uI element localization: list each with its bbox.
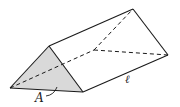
length-label: ℓ	[125, 73, 130, 86]
edge-top-ridge	[49, 9, 133, 46]
area-label: A	[34, 91, 44, 105]
triangular-prism-diagram: A ℓ	[0, 0, 180, 107]
front-face-shaded	[10, 46, 83, 92]
edge-back-right	[133, 9, 168, 55]
hidden-edge-back-bottom	[94, 50, 168, 55]
hidden-edge-back-left	[94, 9, 133, 50]
